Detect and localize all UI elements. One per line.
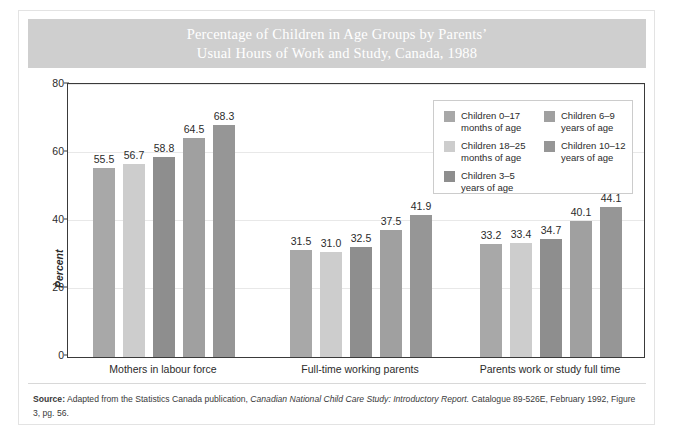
bar-value-label: 64.5 xyxy=(184,123,204,135)
source-label: Source: xyxy=(33,394,65,404)
bar-value-label: 58.8 xyxy=(154,142,174,154)
y-tick-label: 60 xyxy=(38,145,64,157)
y-tick-label: 20 xyxy=(38,281,64,293)
bar: 37.5 xyxy=(380,230,402,358)
bar: 32.5 xyxy=(350,247,372,358)
source-text-part-1: Adapted from the Statistics Canada publi… xyxy=(65,394,250,404)
bar: 41.9 xyxy=(410,215,432,357)
chart-title-line-2: Usual Hours of Work and Study, Canada, 1… xyxy=(197,44,477,63)
legend-swatch-icon xyxy=(444,171,455,182)
x-axis-category-label: Full-time working parents xyxy=(301,363,418,375)
bar-value-label: 68.3 xyxy=(214,110,234,122)
legend-column-right: Children 6–9 years of ageChildren 10–12 … xyxy=(544,110,625,170)
y-tick-label: 0 xyxy=(38,349,64,361)
legend-label: Children 6–9 years of age xyxy=(561,110,615,133)
legend-swatch-icon xyxy=(544,141,555,152)
bar: 58.8 xyxy=(153,157,175,357)
chart-title-banner: Percentage of Children in Age Groups by … xyxy=(28,19,646,68)
bar-value-label: 37.5 xyxy=(381,215,401,227)
bar-value-label: 32.5 xyxy=(351,232,371,244)
bar-value-label: 34.7 xyxy=(541,224,561,236)
bar-value-label: 31.0 xyxy=(321,237,341,249)
bar-value-label: 40.1 xyxy=(571,206,591,218)
plot-area: 55.556.758.864.568.331.531.032.537.541.9… xyxy=(67,83,645,358)
bar-value-label: 56.7 xyxy=(124,149,144,161)
bar-value-label: 31.5 xyxy=(291,235,311,247)
y-tick-label: 40 xyxy=(38,213,64,225)
x-axis-category-labels: Mothers in labour forceFull-time working… xyxy=(67,363,645,379)
chart-legend: Children 0–17 months of ageChildren 18–2… xyxy=(433,100,633,194)
figure-card: Percentage of Children in Age Groups by … xyxy=(18,10,655,425)
legend-entry: Children 18–25 months of age xyxy=(444,140,525,163)
x-axis-category-label: Parents work or study full time xyxy=(480,363,621,375)
chart-title-line-1: Percentage of Children in Age Groups by … xyxy=(187,25,488,44)
bar: 33.4 xyxy=(510,243,532,357)
x-axis-category-label: Mothers in labour force xyxy=(109,363,216,375)
legend-entry: Children 6–9 years of age xyxy=(544,110,625,133)
legend-entry: Children 10–12 years of age xyxy=(544,140,625,163)
bar: 31.0 xyxy=(320,252,342,357)
bar-value-label: 33.4 xyxy=(511,228,531,240)
legend-label: Children 10–12 years of age xyxy=(561,140,625,163)
bar: 68.3 xyxy=(213,125,235,357)
source-divider xyxy=(28,383,646,384)
source-note: Source: Adapted from the Statistics Cana… xyxy=(33,392,643,420)
y-tick-label: 80 xyxy=(38,77,64,89)
bar: 56.7 xyxy=(123,164,145,357)
bar: 44.1 xyxy=(600,207,622,357)
bar: 33.2 xyxy=(480,244,502,357)
bar-value-label: 33.2 xyxy=(481,229,501,241)
legend-swatch-icon xyxy=(544,111,555,122)
bar-value-label: 55.5 xyxy=(94,153,114,165)
gridline xyxy=(68,84,644,85)
bar-value-label: 41.9 xyxy=(411,200,431,212)
source-publication-title: Canadian National Child Care Study: Intr… xyxy=(250,394,469,404)
bar: 31.5 xyxy=(290,250,312,357)
legend-swatch-icon xyxy=(444,111,455,122)
legend-entry: Children 3–5 years of age xyxy=(444,170,525,193)
y-axis: Percent 020406080 xyxy=(33,83,64,358)
bar: 64.5 xyxy=(183,138,205,357)
bar: 34.7 xyxy=(540,239,562,357)
legend-label: Children 3–5 years of age xyxy=(461,170,515,193)
legend-column-left: Children 0–17 months of ageChildren 18–2… xyxy=(444,110,525,200)
legend-label: Children 18–25 months of age xyxy=(461,140,525,163)
legend-label: Children 0–17 months of age xyxy=(461,110,521,133)
bar: 40.1 xyxy=(570,221,592,357)
legend-swatch-icon xyxy=(444,141,455,152)
legend-entry: Children 0–17 months of age xyxy=(444,110,525,133)
bar: 55.5 xyxy=(93,168,115,357)
